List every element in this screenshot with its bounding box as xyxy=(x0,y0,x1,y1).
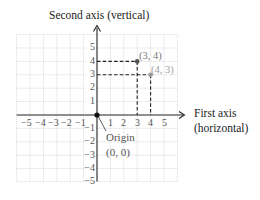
y-tick: 1 xyxy=(90,95,95,106)
x-tick: 4 xyxy=(148,117,153,128)
origin-label-line2: (0, 0) xyxy=(106,146,130,158)
origin-label-line1: Origin xyxy=(106,131,135,143)
y-tick: 5 xyxy=(90,41,95,52)
x-tick: 3 xyxy=(135,117,140,128)
point-label-3-4: (3, 4) xyxy=(139,50,162,61)
x-tick: 5 xyxy=(162,117,167,128)
y-tick: −2 xyxy=(84,135,95,146)
y-tick: 3 xyxy=(90,68,95,79)
y-tick: 4 xyxy=(90,55,95,66)
y-tick: −3 xyxy=(84,149,95,160)
y-tick: −1 xyxy=(84,122,95,133)
x-tick: 2 xyxy=(121,117,126,128)
y-tick: −4 xyxy=(84,162,95,173)
y-tick-labels: 5 4 3 2 1 −1 −2 −3 −4 −5 xyxy=(0,0,96,200)
x-tick: 1 xyxy=(108,117,113,128)
y-tick: 2 xyxy=(90,81,95,92)
point-label-4-3: (4, 3) xyxy=(151,64,174,75)
y-tick: −5 xyxy=(84,175,95,186)
